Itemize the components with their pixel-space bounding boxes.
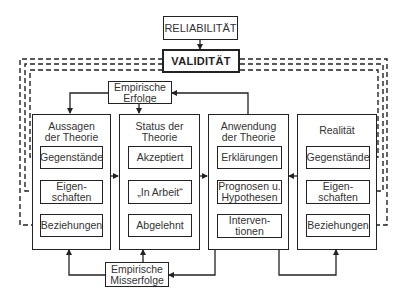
status-item-rejected: Abgelehnt [128, 214, 192, 237]
status-item-accepted: Akzeptiert [128, 146, 192, 169]
reliability-label: RELIABILITÄT [164, 23, 236, 34]
reality-item-properties: Eigen- schaften [306, 180, 370, 204]
validity-box: VALIDITÄT [162, 49, 240, 73]
application-item-interventions: Interven- tionen [217, 214, 282, 238]
theory-item-properties: Eigen- schaften [40, 180, 103, 204]
application-item-predictions: Prognosen u. Hypothesen [217, 180, 282, 204]
theory-item-relations: Beziehungen [40, 214, 103, 237]
reality-item-objects: Gegenstände [306, 146, 370, 169]
column-title: Aussagen der Theorie [33, 121, 110, 143]
reality-item-relations: Beziehungen [306, 214, 370, 237]
theory-item-objects: Gegenstände [40, 146, 103, 169]
application-item-explanations: Erklärungen [217, 146, 282, 169]
column-title: Anwendung der Theorie [209, 121, 288, 143]
reliability-box: RELIABILITÄT [163, 16, 238, 40]
column-title: Status der Theorie [120, 121, 199, 143]
empirical-successes-box: Empirische Erfolge [108, 81, 172, 104]
empirical-failures-box: Empirische Misserfolge [105, 262, 169, 287]
column-title: Realität [298, 125, 376, 136]
empirical-failures-label: Empirische Misserfolge [110, 264, 164, 286]
validity-label: VALIDITÄT [171, 56, 230, 67]
status-item-in-progress: „In Arbeit“ [128, 180, 192, 204]
empirical-successes-label: Empirische Erfolge [114, 82, 166, 104]
